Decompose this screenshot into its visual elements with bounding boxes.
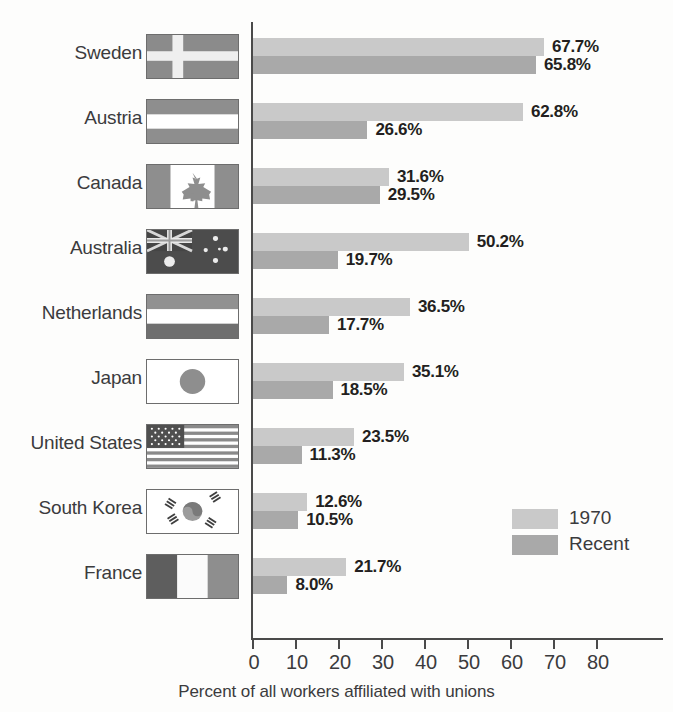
bar-value-recent: 26.6% (375, 120, 422, 140)
union-membership-chart: Sweden 67.7%65.8%Austria 62.8%26.6%Canad… (0, 0, 673, 712)
country-label: France (0, 562, 142, 584)
bar-fill-recent (253, 251, 338, 269)
country-label: Japan (0, 367, 142, 389)
bar-value-recent: 18.5% (341, 380, 388, 400)
country-label: South Korea (0, 497, 142, 519)
bar-value-1970: 12.6% (315, 492, 362, 512)
flag-canada-icon (146, 164, 239, 209)
bar-value-1970: 62.8% (531, 102, 578, 122)
country-label: Canada (0, 172, 142, 194)
bar-value-recent: 65.8% (544, 55, 591, 75)
bar-value-1970: 67.7% (552, 37, 599, 57)
bar-fill-recent (253, 186, 380, 204)
x-axis-title: Percent of all workers affiliated with u… (0, 682, 673, 702)
x-tick-mark (338, 640, 340, 649)
chart-row: Netherlands 36.5%17.7% (0, 290, 673, 348)
legend-label-recent: Recent (569, 533, 629, 555)
country-label: Australia (0, 237, 142, 259)
x-tick-mark (510, 640, 512, 649)
chart-row: United States 23.5%11.3% (0, 420, 673, 478)
bar-fill-recent (253, 316, 329, 334)
x-tick-label: 40 (406, 651, 446, 674)
bar-fill-recent (253, 576, 287, 594)
flag-japan-icon (146, 359, 239, 404)
flag-france-icon (146, 554, 239, 599)
chart-row: Australia 50.2%19.7% (0, 225, 673, 283)
x-tick-label: 30 (363, 651, 403, 674)
bar-fill-recent (253, 56, 536, 74)
bar-fill-recent (253, 446, 302, 464)
country-label: Netherlands (0, 302, 142, 324)
bar-value-1970: 21.7% (354, 557, 401, 577)
bar-value-1970: 23.5% (362, 427, 409, 447)
x-tick-label: 20 (320, 651, 360, 674)
country-label: United States (0, 432, 142, 454)
x-tick-mark (252, 640, 254, 649)
bar-fill-1970 (253, 38, 544, 56)
x-tick-mark (381, 640, 383, 649)
x-tick-label: 70 (535, 651, 575, 674)
bar-fill-1970 (253, 558, 346, 576)
flag-south-korea-icon (146, 489, 239, 534)
bar-value-recent: 29.5% (388, 185, 435, 205)
x-tick-label: 80 (578, 651, 618, 674)
x-tick-mark (295, 640, 297, 649)
flag-sweden-icon (146, 34, 239, 79)
bar-fill-recent (253, 121, 367, 139)
bar-value-recent: 8.0% (295, 575, 333, 595)
flag-united-states-icon (146, 424, 239, 469)
flag-netherlands-icon (146, 294, 239, 339)
x-tick-label: 0 (234, 651, 274, 674)
bar-fill-1970 (253, 103, 523, 121)
x-tick-mark (553, 640, 555, 649)
bar-fill-recent (253, 381, 333, 399)
legend-label-1970: 1970 (569, 507, 611, 529)
bar-value-recent: 11.3% (310, 445, 356, 465)
bar-fill-1970 (253, 493, 307, 511)
bar-fill-recent (253, 511, 298, 529)
chart-row: Austria 62.8%26.6% (0, 95, 673, 153)
country-label: Sweden (0, 42, 142, 64)
bar-fill-1970 (253, 363, 404, 381)
chart-row: Canada 31.6%29.5% (0, 160, 673, 218)
bar-fill-1970 (253, 168, 389, 186)
bar-value-1970: 31.6% (397, 167, 444, 187)
x-tick-label: 10 (277, 651, 317, 674)
bar-value-1970: 36.5% (418, 297, 465, 317)
x-tick-mark (467, 640, 469, 649)
bar-fill-1970 (253, 298, 410, 316)
x-tick-label: 60 (492, 651, 532, 674)
chart-row: Japan 35.1%18.5% (0, 355, 673, 413)
x-tick-mark (424, 640, 426, 649)
bar-value-recent: 17.7% (337, 315, 384, 335)
flag-australia-icon (146, 229, 239, 274)
country-label: Austria (0, 107, 142, 129)
legend-swatch-recent (512, 535, 558, 555)
x-tick-mark (596, 640, 598, 649)
bar-fill-1970 (253, 428, 354, 446)
y-axis-line (251, 22, 253, 640)
bar-value-recent: 19.7% (346, 250, 393, 270)
bar-fill-1970 (253, 233, 469, 251)
chart-row: France 21.7%8.0% (0, 550, 673, 608)
flag-austria-icon (146, 99, 239, 144)
chart-row: Sweden 67.7%65.8% (0, 30, 673, 88)
x-tick-label: 50 (449, 651, 489, 674)
bar-value-1970: 50.2% (477, 232, 524, 252)
bar-value-1970: 35.1% (412, 362, 459, 382)
bar-value-recent: 10.5% (306, 510, 353, 530)
x-axis-line (251, 638, 663, 640)
legend-swatch-1970 (512, 509, 558, 529)
